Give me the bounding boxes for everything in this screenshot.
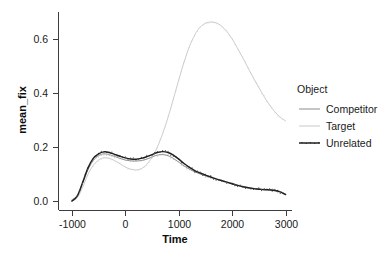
data-point bbox=[226, 30, 227, 31]
data-point bbox=[162, 154, 163, 155]
data-point bbox=[143, 157, 144, 158]
data-point bbox=[256, 82, 257, 83]
data-point bbox=[229, 182, 230, 183]
data-point bbox=[157, 147, 158, 148]
data-point bbox=[218, 179, 219, 180]
data-point bbox=[167, 151, 168, 152]
data-point bbox=[93, 166, 94, 167]
data-point bbox=[114, 161, 115, 162]
data-point bbox=[165, 150, 166, 151]
data-point bbox=[272, 107, 273, 108]
data-point bbox=[151, 157, 152, 158]
data-point bbox=[154, 152, 155, 153]
data-point bbox=[82, 181, 83, 182]
legend-item-target[interactable]: Target bbox=[299, 120, 355, 132]
data-point bbox=[269, 188, 270, 189]
data-point bbox=[85, 181, 86, 182]
data-point bbox=[237, 186, 238, 187]
data-point bbox=[87, 167, 88, 168]
legend-item-unrelated[interactable]: Unrelated bbox=[299, 137, 372, 149]
data-point bbox=[114, 157, 115, 158]
data-point bbox=[170, 155, 171, 156]
data-point bbox=[165, 154, 166, 155]
data-point bbox=[184, 163, 185, 164]
legend-item-competitor[interactable]: Competitor bbox=[299, 103, 378, 115]
data-point bbox=[192, 169, 193, 170]
data-point bbox=[111, 156, 112, 157]
data-point bbox=[274, 191, 275, 192]
data-point bbox=[277, 190, 278, 191]
data-point bbox=[264, 95, 265, 96]
data-point bbox=[216, 179, 217, 180]
data-point bbox=[192, 167, 193, 168]
data-point bbox=[186, 168, 187, 169]
data-point bbox=[87, 175, 88, 176]
data-point bbox=[157, 151, 158, 152]
x-tick-label: 2000 bbox=[221, 218, 245, 230]
data-point bbox=[282, 119, 283, 120]
data-point bbox=[256, 189, 257, 190]
data-point bbox=[90, 169, 91, 170]
data-point bbox=[101, 159, 102, 160]
data-point bbox=[93, 158, 94, 159]
data-point bbox=[176, 160, 177, 161]
data-point bbox=[141, 160, 142, 161]
data-point bbox=[119, 155, 120, 156]
data-point bbox=[208, 23, 209, 24]
y-axis-title: mean_fix bbox=[16, 85, 28, 134]
data-point bbox=[95, 156, 96, 157]
legend-swatch-point bbox=[306, 143, 307, 144]
data-point bbox=[253, 78, 254, 79]
y-tick-label: 0.2 bbox=[33, 141, 48, 153]
data-point bbox=[266, 189, 267, 190]
data-point bbox=[125, 160, 126, 161]
data-point bbox=[184, 62, 185, 63]
data-point bbox=[282, 192, 283, 193]
data-point bbox=[184, 166, 185, 167]
data-point bbox=[98, 161, 99, 162]
data-point bbox=[232, 182, 233, 183]
data-point bbox=[141, 157, 142, 158]
data-point bbox=[135, 170, 136, 171]
data-point bbox=[234, 44, 235, 45]
data-point bbox=[165, 126, 166, 127]
data-point bbox=[176, 156, 177, 157]
data-point bbox=[229, 35, 230, 36]
data-point bbox=[253, 189, 254, 190]
data-point bbox=[266, 101, 267, 102]
series-line-target bbox=[72, 22, 286, 201]
data-point bbox=[186, 165, 187, 166]
data-point bbox=[240, 184, 241, 185]
data-point bbox=[98, 153, 99, 154]
data-point bbox=[106, 155, 107, 156]
data-point bbox=[133, 169, 134, 170]
data-point bbox=[226, 183, 227, 184]
data-point bbox=[194, 171, 195, 172]
data-point bbox=[242, 186, 243, 187]
data-point bbox=[274, 112, 275, 113]
data-point bbox=[173, 159, 174, 160]
data-point bbox=[111, 151, 112, 152]
data-point bbox=[189, 169, 190, 170]
data-point bbox=[264, 188, 265, 189]
data-point bbox=[138, 159, 139, 160]
data-point bbox=[127, 169, 128, 170]
x-tick-label: 0 bbox=[123, 218, 129, 230]
data-point bbox=[269, 190, 270, 191]
data-point bbox=[162, 150, 163, 151]
data-point bbox=[269, 105, 270, 106]
data-point bbox=[261, 93, 262, 94]
legend-title: Object bbox=[297, 83, 327, 95]
data-point bbox=[109, 152, 110, 153]
data-point bbox=[106, 157, 107, 158]
data-point bbox=[90, 165, 91, 166]
data-point bbox=[266, 190, 267, 191]
data-point bbox=[248, 187, 249, 188]
data-point bbox=[103, 154, 104, 155]
data-point bbox=[213, 22, 214, 23]
data-point bbox=[181, 164, 182, 165]
data-point bbox=[277, 115, 278, 116]
data-point bbox=[202, 174, 203, 175]
data-point bbox=[272, 191, 273, 192]
data-point bbox=[210, 175, 211, 176]
